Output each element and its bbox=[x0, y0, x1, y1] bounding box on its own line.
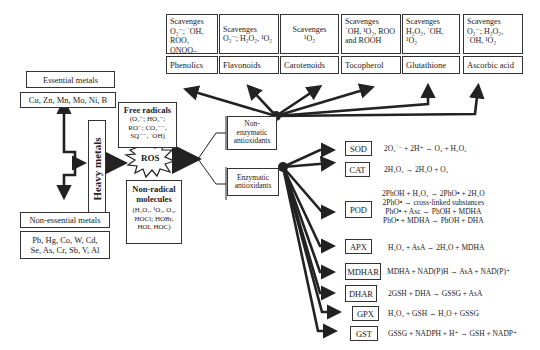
enzyme-dhar: DHAR bbox=[345, 285, 377, 302]
sod-label: SOD bbox=[350, 144, 367, 154]
gst-label: GST bbox=[356, 329, 372, 339]
cat-reaction: 2H₂O₂ → 2H₂O + O₂ bbox=[384, 165, 448, 174]
apx-label: APX bbox=[350, 242, 367, 252]
phenolics-label: Phenolics bbox=[170, 60, 203, 70]
gpx-reaction: H₂O₂ + GSH → H₂O + GSSG bbox=[388, 309, 479, 318]
sod-reaction: 2O₂˙⁻ + 2H⁺ → O₂ + H₂O₂ bbox=[384, 144, 467, 153]
phenolics-scavenges-text: Scavenges O₂⁻; ˙OH, ROO, ONOO– bbox=[170, 17, 204, 55]
flavonoids-label: Flavonoids bbox=[223, 60, 261, 70]
carotenoids-label: Carotenoids bbox=[284, 60, 325, 70]
non-enzymatic-label: Non- enzymatic antioxidants bbox=[234, 120, 271, 146]
enzymatic-label: Enzymatic antioxidants bbox=[235, 174, 272, 191]
tocopherol-scavenges-text: Scavenges ˙OH, ¹O₂, ROO and ROOH bbox=[345, 17, 395, 45]
ascorbic-acid-scavenges: Scavenges O₂⁻; H₂O₂, ˙OH, ¹O₂ bbox=[463, 14, 523, 54]
non-radical-title: Non-radical molecules bbox=[127, 184, 181, 204]
enzyme-cat: CAT bbox=[345, 162, 370, 177]
dhar-reaction: 2GSH + DHA → GSSG + AsA bbox=[388, 289, 482, 298]
essential-metals-list: Cu, Zn, Mn, Mo, Ni, B bbox=[20, 92, 116, 108]
glutathione-scavenges: Scavenges H₂O₂, ˙OH, ¹O₂ bbox=[402, 14, 460, 54]
phenolics-scavenges: Scavenges O₂⁻; ˙OH, ROO, ONOO– bbox=[166, 14, 218, 54]
apx-reaction: H₂O₂ + AsA → 2H₂O + MDHA bbox=[388, 243, 484, 252]
mdhar-reaction: MDHA + NAD(P)H → AsA + NAD(P)⁺ bbox=[387, 267, 510, 276]
glutathione-label: Glutathione bbox=[406, 60, 446, 70]
ascorbic-acid-scavenges-text: Scavenges O₂⁻; H₂O₂, ˙OH, ¹O₂ bbox=[467, 17, 503, 45]
flavonoids-box: Flavonoids bbox=[219, 56, 279, 74]
glutathione-box: Glutathione bbox=[402, 56, 460, 74]
ros-label: ROS bbox=[141, 153, 160, 163]
gpx-label: GPX bbox=[357, 309, 374, 319]
enzyme-gst: GST bbox=[350, 326, 378, 341]
flavonoids-scavenges-text: Scavenges O₂⁻; H₂O₂, ¹O₂ bbox=[223, 25, 272, 44]
non-radical-box: Non-radical molecules (H₂O₂, ¹O₂, O₃, HO… bbox=[126, 180, 182, 244]
heavy-metals-box: Heavy metals bbox=[88, 120, 106, 218]
tocopherol-box: Tocopherol bbox=[341, 56, 401, 74]
ascorbic-acid-label: Ascorbic acid bbox=[467, 60, 514, 70]
essential-metals-list-text: Cu, Zn, Mn, Mo, Ni, B bbox=[29, 95, 107, 105]
nonessential-metals-title: Non-essential metals bbox=[20, 212, 110, 228]
carotenoids-box: Carotenoids bbox=[280, 56, 339, 74]
non-enzymatic-antioxidants: Non- enzymatic antioxidants bbox=[227, 116, 277, 150]
enzyme-sod: SOD bbox=[345, 141, 372, 156]
ascorbic-acid-box: Ascorbic acid bbox=[463, 56, 523, 74]
glutathione-scavenges-text: Scavenges H₂O₂, ˙OH, ¹O₂ bbox=[406, 17, 443, 45]
nonessential-metals-list-text: Pb, Hg, Co, W, Cd, Se, As, Cr, Sb, V, Al bbox=[31, 235, 100, 255]
enzyme-gpx: GPX bbox=[352, 306, 379, 321]
enzyme-pod: POD bbox=[345, 201, 372, 218]
free-radicals-title: Free radicals bbox=[119, 105, 176, 115]
free-radicals-box: Free radicals (O₂⁻; HO₂⁻; RO⁻; CO₃⁻⁻, SQ… bbox=[118, 102, 177, 148]
enzymatic-antioxidants: Enzymatic antioxidants bbox=[227, 168, 279, 196]
free-radicals-list: (O₂⁻; HO₂⁻; RO⁻; CO₃⁻⁻, SQ⁻⁻, ˙OH) bbox=[119, 115, 176, 141]
tocopherol-scavenges: Scavenges ˙OH, ¹O₂, ROO and ROOH bbox=[341, 14, 401, 54]
dhar-label: DHAR bbox=[349, 289, 373, 299]
enzyme-apx: APX bbox=[345, 239, 372, 254]
pod-label: POD bbox=[350, 205, 367, 215]
flavonoids-scavenges: Scavenges O₂⁻; H₂O₂, ¹O₂ bbox=[219, 14, 279, 54]
pod-reactions: 2PhOH + H₂O₂ → 2PhO• + 2H₂O 2PhO• → cros… bbox=[382, 189, 485, 225]
cat-label: CAT bbox=[349, 165, 365, 175]
non-radical-list: (H₂O₂, ¹O₂, O₃, HOCl; HOBr, HOI, HOC) bbox=[127, 206, 181, 232]
essential-metals-title: Essential metals bbox=[26, 71, 115, 88]
mdhar-label: MDHAR bbox=[347, 267, 379, 277]
essential-metals-title-text: Essential metals bbox=[43, 75, 98, 85]
nonessential-metals-title-text: Non-essential metals bbox=[29, 215, 100, 225]
phenolics-box: Phenolics bbox=[166, 56, 218, 74]
carotenoids-scavenges: Scavenges ¹O₂ bbox=[280, 14, 339, 54]
carotenoids-scavenges-text: Scavenges ¹O₂ bbox=[293, 25, 327, 44]
enzyme-mdhar: MDHAR bbox=[345, 263, 381, 280]
heavy-metals-label: Heavy metals bbox=[92, 137, 102, 200]
gst-reaction: GSSG + NADPH + H⁺ → GSH + NADP⁺ bbox=[388, 329, 517, 338]
nonessential-metals-list: Pb, Hg, Co, W, Cd, Se, As, Cr, Sb, V, Al bbox=[20, 231, 110, 259]
tocopherol-label: Tocopherol bbox=[345, 60, 384, 70]
